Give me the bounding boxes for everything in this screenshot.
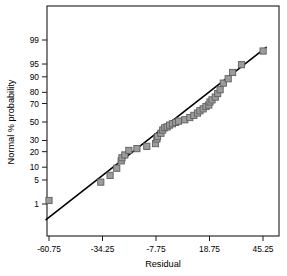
data-point [217, 87, 223, 93]
plot-frame [47, 6, 279, 236]
y-tick-label-20: 20 [30, 147, 40, 157]
normal-probability-plot-figure: -60.75 -34.25 -7.75 18.75 45.25 Residual… [0, 0, 287, 276]
x-axis-title: Residual [145, 259, 181, 269]
y-axis-ticks [42, 40, 47, 204]
data-point [175, 118, 181, 124]
x-tick-label-2: -7.75 [146, 244, 165, 254]
y-tick-label-5: 5 [34, 175, 39, 185]
y-tick-label-90: 90 [30, 72, 40, 82]
y-tick-label-50: 50 [30, 117, 40, 127]
data-point [230, 69, 236, 75]
y-tick-label-95: 95 [30, 59, 40, 69]
y-tick-label-70: 70 [30, 99, 40, 109]
y-tick-label-30: 30 [30, 135, 40, 145]
data-point [260, 48, 266, 54]
data-point-group [46, 48, 266, 204]
data-point [114, 165, 120, 171]
y-tick-label-10: 10 [30, 162, 40, 172]
data-point [46, 197, 52, 203]
x-axis-ticks [49, 236, 263, 241]
data-point [238, 62, 244, 68]
data-point [126, 147, 132, 153]
data-point [98, 179, 104, 185]
x-tick-label-1: -34.25 [91, 244, 115, 254]
x-tick-label-3: 18.75 [199, 244, 220, 254]
y-tick-label-99: 99 [30, 35, 40, 45]
y-tick-label-1: 1 [34, 199, 39, 209]
data-point [107, 172, 113, 178]
y-axis-tick-labels: 99 95 90 80 70 50 30 20 10 5 1 [30, 35, 40, 209]
y-axis-title: Normal % probability [6, 79, 16, 164]
y-tick-label-80: 80 [30, 87, 40, 97]
data-point [134, 146, 140, 152]
x-axis-tick-labels: -60.75 -34.25 -7.75 18.75 45.25 [37, 244, 274, 254]
x-tick-label-0: -60.75 [37, 244, 61, 254]
data-point [144, 143, 150, 149]
data-point [225, 76, 231, 82]
x-tick-label-4: 45.25 [253, 244, 274, 254]
chart-canvas: -60.75 -34.25 -7.75 18.75 45.25 Residual… [0, 0, 287, 276]
